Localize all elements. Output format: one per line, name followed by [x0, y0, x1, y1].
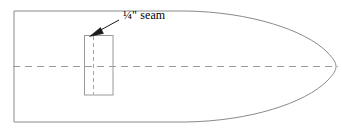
pattern-diagram: ¼" seam — [0, 0, 342, 131]
diagram-canvas — [0, 0, 342, 131]
seam-annotation-label: ¼" seam — [123, 8, 165, 22]
